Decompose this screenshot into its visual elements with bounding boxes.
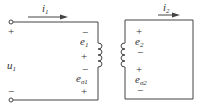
arrow-head-icon xyxy=(172,13,180,18)
e1-sub: 1 xyxy=(85,41,89,49)
u1-label: u1 xyxy=(7,60,16,73)
u1-sub: 1 xyxy=(13,65,17,73)
u1-minus-sign: − xyxy=(8,86,14,97)
es1-bottom-sign: + xyxy=(81,86,87,97)
terminal-top xyxy=(9,20,13,24)
u1-plus-sign: + xyxy=(8,26,14,37)
i1-sub: 1 xyxy=(45,8,49,16)
circuit-diagram xyxy=(0,0,198,105)
es2-bottom-sign: − xyxy=(137,85,143,96)
e1-label: e1 xyxy=(80,36,88,49)
e2-bottom-sign: − xyxy=(137,47,143,58)
i2-sub: 2 xyxy=(166,7,170,15)
e1-bottom-sign: + xyxy=(81,51,87,62)
arrow-head-icon xyxy=(60,15,68,20)
i2-label: i2 xyxy=(163,2,170,15)
primary-coil xyxy=(98,43,102,67)
terminal-bottom xyxy=(9,98,13,102)
secondary-coil xyxy=(121,43,125,67)
i1-label: i1 xyxy=(42,3,49,16)
